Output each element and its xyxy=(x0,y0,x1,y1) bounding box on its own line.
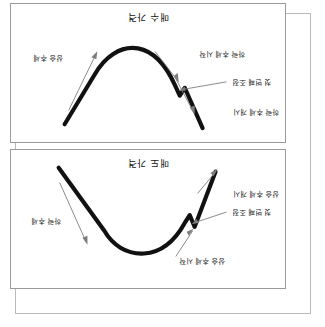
buy-price-panel: 하락 추세 개시 첫 번째 조정 하락 추세 시작 상승 추세 매수 가격 xyxy=(10,3,286,143)
annotation-first-correction: 첫 번째 조정 xyxy=(232,209,271,216)
outer-frame: 상승 추세 시작 첫 번째 조정 상승 추세 개시 하락 추세 매도 가격 xyxy=(15,13,311,314)
buy-price-panel-title: 매수 가격 xyxy=(11,11,285,25)
annotation-uptrend-start: 상승 추세 개시 xyxy=(233,191,279,198)
annotation-downtrend: 하락 추세 xyxy=(31,218,61,225)
annotation-first-correction-2: 첫 번째 조정 xyxy=(232,79,271,86)
price-curve-peak xyxy=(59,168,216,254)
sell-price-panel-title: 매도 가격 xyxy=(11,157,285,171)
annotation-downtrend-start: 하락 추세 시작 xyxy=(199,51,245,58)
annotation-uptrend: 상승 추세 xyxy=(33,55,63,62)
annotation-downtrend-start-open: 하락 추세 개시 xyxy=(233,109,279,116)
diagram-stage: 상승 추세 시작 첫 번째 조정 상승 추세 개시 하락 추세 매도 가격 xyxy=(0,0,325,327)
sell-price-panel: 상승 추세 시작 첫 번째 조정 상승 추세 개시 하락 추세 매도 가격 xyxy=(10,149,286,289)
price-curve-trough xyxy=(65,48,203,128)
annotation-uptrend-continue: 상승 추세 시작 xyxy=(179,258,225,265)
leader-downtrend-start xyxy=(155,51,179,83)
